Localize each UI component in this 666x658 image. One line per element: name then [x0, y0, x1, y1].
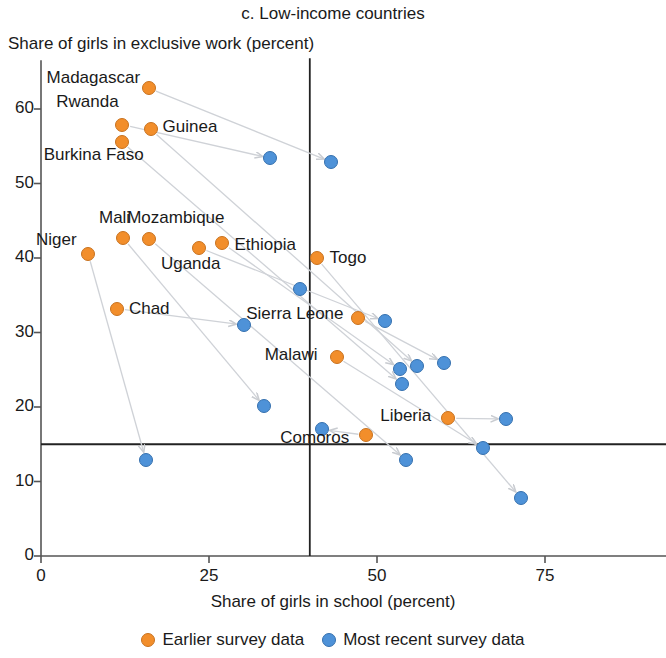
data-point-earlier[interactable] [142, 232, 156, 246]
y-tick-label: 60 [0, 98, 34, 118]
data-point-recent[interactable] [499, 412, 513, 426]
legend: Earlier survey data Most recent survey d… [0, 630, 666, 650]
y-tick-label: 50 [0, 173, 34, 193]
country-label: Madagascar [47, 68, 141, 88]
country-label: Uganda [161, 254, 221, 274]
data-point-earlier[interactable] [330, 350, 344, 364]
data-point-recent[interactable] [393, 362, 407, 376]
data-point-earlier[interactable] [144, 122, 158, 136]
country-label: Malawi [265, 345, 318, 365]
data-point-earlier[interactable] [310, 251, 324, 265]
y-tick-label: 0 [0, 545, 34, 565]
figure-panel: c. Low-income countries Share of girls i… [0, 0, 666, 658]
country-label: Mali [99, 208, 130, 228]
country-label: Ethiopia [234, 235, 295, 255]
legend-label-recent: Most recent survey data [343, 630, 524, 650]
y-tick-label: 20 [0, 396, 34, 416]
data-point-recent[interactable] [293, 282, 307, 296]
data-point-recent[interactable] [139, 453, 153, 467]
y-tick-label: 10 [0, 471, 34, 491]
legend-label-earlier: Earlier survey data [162, 630, 304, 650]
x-tick-label: 25 [189, 566, 229, 586]
legend-item-earlier: Earlier survey data [141, 630, 304, 650]
country-label: Guinea [163, 117, 218, 137]
connector-arrow [456, 418, 497, 419]
x-tick-label: 50 [357, 566, 397, 586]
data-point-earlier[interactable] [192, 241, 206, 255]
country-label: Rwanda [56, 92, 118, 112]
data-point-recent[interactable] [514, 491, 528, 505]
y-tick-label: 30 [0, 322, 34, 342]
data-point-earlier[interactable] [142, 81, 156, 95]
x-tick-label: 75 [525, 566, 565, 586]
data-point-earlier[interactable] [110, 302, 124, 316]
country-label: Sierra Leone [246, 304, 343, 324]
data-point-earlier[interactable] [116, 231, 130, 245]
country-label: Liberia [380, 406, 431, 426]
y-tick-label: 40 [0, 247, 34, 267]
country-label: Mozambique [127, 208, 224, 228]
country-label: Burkina Faso [44, 145, 144, 165]
country-label: Comoros [280, 428, 349, 448]
connector-arrow [90, 261, 143, 451]
country-label: Chad [129, 299, 170, 319]
x-tick-label: 0 [21, 566, 61, 586]
data-point-earlier[interactable] [115, 118, 129, 132]
data-point-recent[interactable] [399, 453, 413, 467]
data-point-earlier[interactable] [351, 311, 365, 325]
connector-arrow [322, 264, 515, 491]
data-point-earlier[interactable] [81, 247, 95, 261]
country-label: Togo [330, 248, 367, 268]
data-point-recent[interactable] [395, 377, 409, 391]
scatter-plot: 6050403020100 0255075 MadagascarRwandaGu… [0, 0, 666, 658]
legend-item-recent: Most recent survey data [322, 630, 524, 650]
country-label: Niger [36, 230, 77, 250]
legend-dot-recent-icon [322, 633, 336, 647]
connector-arrow [365, 321, 436, 359]
legend-dot-earlier-icon [141, 633, 155, 647]
